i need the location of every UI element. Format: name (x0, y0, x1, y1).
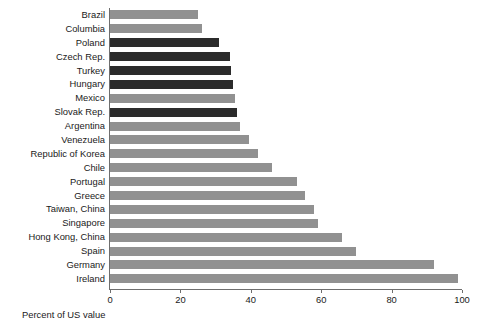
bar-row (110, 230, 462, 244)
x-axis-tick-label: 60 (316, 294, 326, 305)
x-axis-tick (180, 290, 181, 293)
category-label: Hong Kong, China (0, 230, 105, 244)
bar-row (110, 22, 462, 36)
bar-row (110, 202, 462, 216)
category-label: Hungary (0, 77, 105, 91)
x-axis-tick (321, 290, 322, 293)
x-axis-tick (110, 290, 111, 293)
bar-row (110, 216, 462, 230)
bar-row (110, 244, 462, 258)
bar (110, 94, 235, 103)
bar-row (110, 50, 462, 64)
bar (110, 122, 240, 131)
bar (110, 233, 342, 242)
x-axis-tick-label: 100 (454, 294, 470, 305)
category-label: Germany (0, 258, 105, 272)
bar-row (110, 161, 462, 175)
bar (110, 66, 231, 75)
category-label: Turkey (0, 64, 105, 78)
category-label: Brazil (0, 8, 105, 22)
bar-row (110, 64, 462, 78)
category-label: Ireland (0, 272, 105, 286)
bar (110, 163, 272, 172)
category-label: Argentina (0, 119, 105, 133)
y-axis-line (109, 8, 110, 290)
bar-row (110, 258, 462, 272)
bar (110, 191, 305, 200)
category-label: Venezuela (0, 133, 105, 147)
x-axis-line (110, 289, 462, 290)
x-axis-title: Percent of US value (22, 309, 105, 320)
bar-row (110, 189, 462, 203)
category-label: Chile (0, 161, 105, 175)
bar-chart: BrazilColumbiaPolandCzech Rep.TurkeyHung… (0, 0, 488, 328)
category-label: Spain (0, 244, 105, 258)
bar (110, 177, 297, 186)
category-label: Taiwan, China (0, 202, 105, 216)
category-label: Greece (0, 189, 105, 203)
bar-row (110, 105, 462, 119)
category-label: Republic of Korea (0, 147, 105, 161)
bar-row (110, 175, 462, 189)
x-axis-tick-label: 0 (107, 294, 112, 305)
bar (110, 149, 258, 158)
category-label: Poland (0, 36, 105, 50)
bar (110, 219, 318, 228)
x-axis-tick-label: 80 (386, 294, 396, 305)
bar-row (110, 77, 462, 91)
bar-row (110, 133, 462, 147)
bar (110, 205, 314, 214)
bar (110, 52, 230, 61)
bar-row (110, 147, 462, 161)
bar (110, 135, 249, 144)
bar (110, 108, 237, 117)
bar-row (110, 91, 462, 105)
bar (110, 24, 202, 33)
bar-row (110, 119, 462, 133)
x-axis-tick (392, 290, 393, 293)
category-label: Columbia (0, 22, 105, 36)
category-axis-labels: BrazilColumbiaPolandCzech Rep.TurkeyHung… (0, 8, 105, 289)
bar-row (110, 272, 462, 286)
plot-area (110, 8, 462, 289)
category-label: Czech Rep. (0, 50, 105, 64)
bar (110, 38, 219, 47)
x-axis-tick (251, 290, 252, 293)
bar (110, 10, 198, 19)
bar (110, 274, 458, 283)
x-axis-tick-label: 40 (246, 294, 256, 305)
category-label: Portugal (0, 175, 105, 189)
category-label: Mexico (0, 91, 105, 105)
x-axis-tick (462, 290, 463, 293)
x-axis-tick-label: 20 (175, 294, 185, 305)
category-label: Singapore (0, 216, 105, 230)
category-label: Slovak Rep. (0, 105, 105, 119)
bar-row (110, 8, 462, 22)
bar (110, 260, 434, 269)
bar (110, 247, 356, 256)
bar (110, 80, 233, 89)
bar-row (110, 36, 462, 50)
